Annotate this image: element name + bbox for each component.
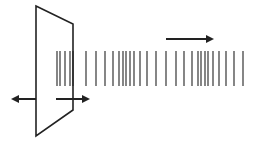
vibrating-plate — [36, 6, 73, 136]
longitudinal-wave-diagram — [0, 0, 257, 147]
diagram-svg — [0, 0, 257, 147]
wave-compression-lines — [57, 51, 243, 86]
